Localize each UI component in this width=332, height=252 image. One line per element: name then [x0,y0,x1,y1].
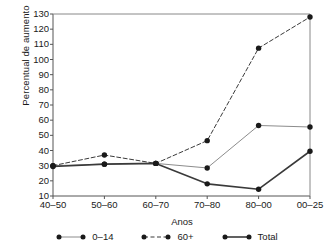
data-point-marker [256,123,261,128]
data-point-marker [307,149,312,154]
legend-marker-right [166,234,171,239]
x-tick-label-text: 40–50 [25,199,81,210]
y-tick-label-text: 100 [18,55,49,65]
data-point-marker [256,45,261,50]
legend-item-label: 60+ [177,231,193,242]
x-tick-label-text: 80–00 [231,199,287,210]
x-tick-label: 00–25 [282,199,332,210]
chart-figure: Percentual de aumento 102030405060708090… [0,0,332,252]
y-tick-label-text: 20 [18,176,49,186]
x-tick-label-text: 50–60 [76,199,132,210]
legend-swatch-icon [220,232,254,242]
legend-item-label: 0–14 [92,231,113,242]
x-tick-label-text: 70–80 [179,199,235,210]
y-tick-label-text: 90 [18,70,49,80]
y-tick-label-text: 130 [18,9,49,19]
data-point-marker [153,161,158,166]
data-point-marker [102,161,107,166]
data-point-marker [205,138,210,143]
y-tick-label-text: 60 [18,115,49,125]
y-tick-label-text: 80 [18,85,49,95]
series-line-3 [53,151,310,189]
legend-swatch-icon [139,232,173,242]
legend-item-3[interactable]: Total [220,231,278,242]
y-tick-label-text: 70 [18,100,49,110]
x-tick-label: 80–00 [231,199,287,210]
data-point-marker [205,165,210,170]
legend-marker-left [57,234,62,239]
data-point-marker [307,124,312,129]
y-tick-label-text: 110 [18,39,49,49]
data-point-marker [307,14,312,19]
series-line-1 [53,125,310,167]
x-tick-label: 60–70 [128,199,184,210]
data-point-marker [102,152,107,157]
legend-marker-right [246,234,251,239]
series-line-2 [53,17,310,166]
legend-item-2[interactable]: 60+ [139,231,193,242]
x-tick-label: 70–80 [179,199,235,210]
x-tick-label-text: 60–70 [128,199,184,210]
x-tick-label: 50–60 [76,199,132,210]
data-point-marker [256,186,261,191]
legend-marker-left [222,234,227,239]
x-axis-label: Anos [53,216,311,227]
legend-marker-right [81,234,86,239]
legend-item-label: Total [258,231,278,242]
y-tick-label-text: 50 [18,130,49,140]
x-tick-label: 40–50 [25,199,81,210]
plot-area [0,0,332,252]
data-point-marker [205,181,210,186]
y-tick-label-text: 120 [18,24,49,34]
x-tick-label-text: 00–25 [282,199,332,210]
data-point-marker [50,164,55,169]
legend-swatch-icon [54,232,88,242]
legend-item-1[interactable]: 0–14 [54,231,113,242]
y-tick-label-text: 40 [18,146,49,156]
y-tick-label-text: 30 [18,161,49,171]
chart-legend: 0–1460+Total [0,231,332,242]
legend-marker-left [142,234,147,239]
